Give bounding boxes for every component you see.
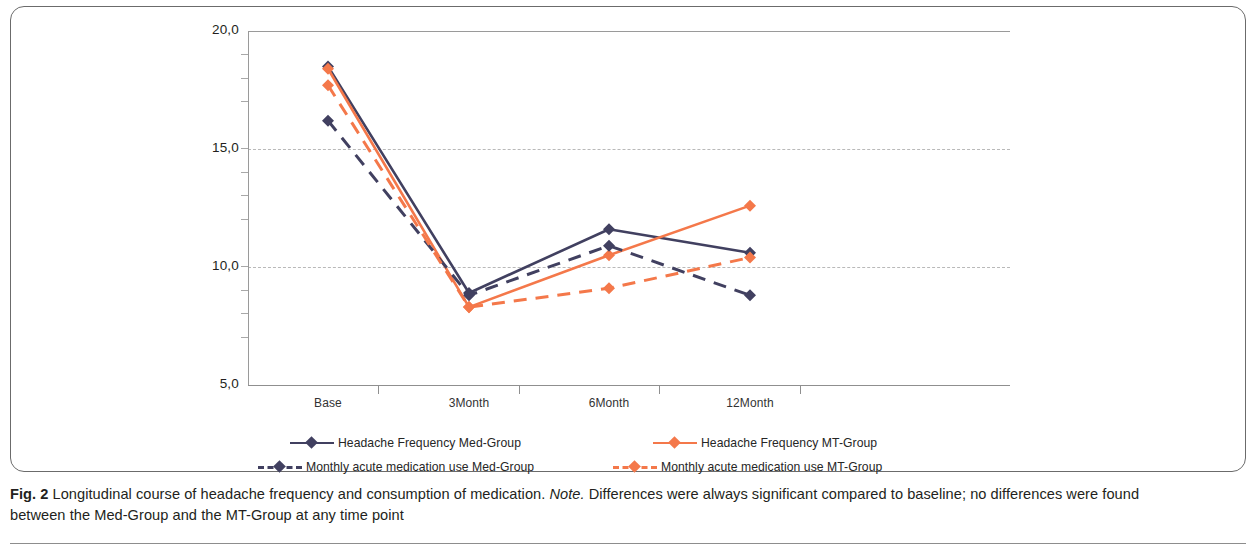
y-minor-tick (241, 219, 248, 220)
y-axis-tick-label: 15,0 (212, 140, 239, 155)
x-axis-tick (378, 385, 379, 394)
y-minor-tick (241, 313, 248, 314)
x-axis-tick (800, 385, 801, 394)
y-minor-tick (241, 172, 248, 173)
legend-swatch-dashed-med (258, 460, 302, 474)
x-axis-label-base: Base (278, 396, 378, 410)
y-minor-tick (241, 337, 248, 338)
legend-label: Headache Frequency MT-Group (701, 436, 877, 450)
x-axis-tick (519, 385, 520, 394)
legend-row-1: Headache Frequency Med-Group Headache Fr… (258, 432, 998, 454)
plot-area (248, 31, 1010, 385)
legend-item-medication-mt-group[interactable]: Monthly acute medication use MT-Group (613, 456, 882, 478)
x-axis-label-3month: 3Month (419, 396, 519, 410)
legend-label: Monthly acute medication use MT-Group (661, 460, 882, 474)
x-axis-line (248, 385, 1010, 386)
legend-swatch-dashed-mt (613, 460, 657, 474)
y-axis-tick-label: 5,0 (220, 376, 239, 391)
y-minor-tick (241, 78, 248, 79)
gridline-10 (248, 267, 1010, 268)
caption-text-part1: Longitudinal course of headache frequenc… (48, 486, 549, 502)
legend-swatch-solid-mt (653, 436, 697, 450)
x-axis-label-12month: 12Month (700, 396, 800, 410)
y-minor-tick (241, 266, 248, 267)
gridline-20 (248, 31, 1010, 32)
y-minor-tick (241, 148, 248, 149)
y-minor-tick (241, 101, 248, 102)
legend-row-2: Monthly acute medication use Med-Group M… (258, 456, 998, 478)
x-axis-label-6month: 6Month (559, 396, 659, 410)
figure-caption: Fig. 2 Longitudinal course of headache f… (10, 484, 1190, 525)
bottom-divider (10, 543, 1246, 544)
y-axis-tick-label: 10,0 (212, 258, 239, 273)
figure-container: 20,0 15,0 10,0 5,0 Base 3Month 6Month 12… (0, 0, 1253, 550)
legend-label: Headache Frequency Med-Group (338, 436, 521, 450)
legend-swatch-solid-med (290, 436, 334, 450)
chart-legend: Headache Frequency Med-Group Headache Fr… (258, 432, 998, 480)
y-minor-tick (241, 54, 248, 55)
legend-label: Monthly acute medication use Med-Group (306, 460, 534, 474)
y-axis-tick-label: 20,0 (212, 22, 239, 37)
caption-note-word: Note. (549, 486, 584, 502)
legend-item-headache-med-group[interactable]: Headache Frequency Med-Group (290, 432, 521, 454)
y-axis-line (248, 31, 249, 385)
legend-item-medication-med-group[interactable]: Monthly acute medication use Med-Group (258, 456, 534, 478)
gridline-15 (248, 149, 1010, 150)
y-minor-tick (241, 195, 248, 196)
legend-item-headache-mt-group[interactable]: Headache Frequency MT-Group (653, 432, 877, 454)
figure-number: Fig. 2 (10, 486, 48, 502)
x-axis-tick (659, 385, 660, 394)
y-minor-tick (241, 290, 248, 291)
